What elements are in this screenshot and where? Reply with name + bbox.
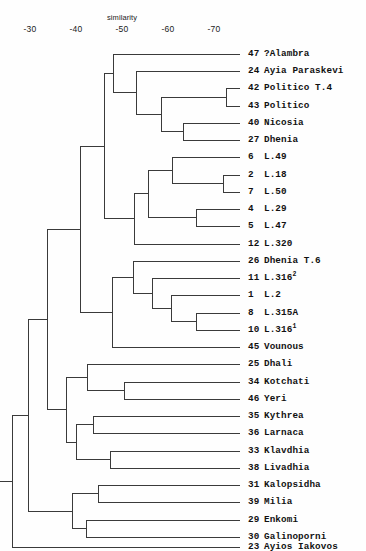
leaf-label: 23Ayios Iakovos	[248, 541, 338, 551]
leaf-label: 46Yeri	[248, 393, 287, 405]
leaf-name: L.50	[264, 186, 287, 198]
leaf-name: Enkomi	[264, 514, 298, 526]
leaf-number: 34	[248, 376, 264, 388]
leaf-name: L.320	[264, 238, 292, 250]
leaf-name: L.315A	[264, 307, 298, 319]
leaf-number: 46	[248, 393, 264, 405]
leaf-label: 33Klavdhia	[248, 445, 309, 457]
leaf-number: 8	[248, 307, 264, 319]
leaf-number: 2	[248, 169, 264, 181]
leaf-number: 25	[248, 358, 264, 370]
leaf-name: Kalopsidha	[264, 479, 321, 491]
leaf-name: Dhenia	[264, 134, 298, 146]
leaf-label: 11L.3162	[248, 272, 296, 284]
leaf-number: 1	[248, 289, 264, 301]
leaf-name: Nicosia	[264, 117, 304, 129]
leaf-name: Yeri	[264, 393, 287, 405]
leaf-label: 6L.49	[248, 151, 287, 163]
leaf-label: 7L.50	[248, 186, 287, 198]
leaf-label: 2L.18	[248, 169, 287, 181]
leaf-number: 26	[248, 255, 264, 267]
leaf-label: 35Kythrea	[248, 410, 304, 422]
leaf-name: L.316	[264, 324, 292, 336]
leaf-name: L.29	[264, 203, 287, 215]
leaf-label: 29Enkomi	[248, 514, 298, 526]
leaf-number: 38	[248, 462, 264, 474]
leaf-name: L.47	[264, 220, 287, 232]
leaf-number: 33	[248, 445, 264, 457]
leaf-label: 4L.29	[248, 203, 287, 215]
leaf-name: L.49	[264, 151, 287, 163]
leaf-label: 27Dhenia	[248, 134, 298, 146]
leaf-number: 27	[248, 134, 264, 146]
leaf-number: 47	[248, 48, 264, 60]
leaf-name: Politico T.4	[264, 82, 332, 94]
leaf-name: Politico	[264, 100, 309, 112]
leaf-number: 12	[248, 238, 264, 250]
leaf-number: 5	[248, 220, 264, 232]
leaf-name: L.2	[264, 289, 281, 301]
leaf-label: 10L.3161	[248, 324, 296, 336]
leaf-label: 1L.2	[248, 289, 281, 301]
leaf-label: 26Dhenia T.6	[248, 255, 321, 267]
leaf-label: 38Livadhia	[248, 462, 309, 474]
leaf-number: 39	[248, 496, 264, 508]
leaf-number: 7	[248, 186, 264, 198]
leaf-label: 43Politico	[248, 100, 309, 112]
leaf-name: Dhali	[264, 358, 292, 370]
leaf-name: Klavdhia	[264, 445, 309, 457]
leaf-name: Ayios Iakovos	[264, 541, 338, 551]
leaf-name: ?Alambra	[264, 48, 309, 60]
leaf-name: Vounous	[264, 341, 304, 353]
leaf-name: Milia	[264, 496, 292, 508]
leaf-label: 42Politico T.4	[248, 82, 332, 94]
leaf-number: 35	[248, 410, 264, 422]
leaf-label: 8L.315A	[248, 307, 298, 319]
leaf-name: Kotchati	[264, 376, 309, 388]
leaf-number: 4	[248, 203, 264, 215]
leaf-name: Dhenia T.6	[264, 255, 321, 267]
leaf-label: 34Kotchati	[248, 376, 309, 388]
leaf-label: 39Milia	[248, 496, 292, 508]
leaf-superscript: 1	[292, 323, 296, 330]
leaf-name: Larnaca	[264, 427, 304, 439]
leaf-number: 24	[248, 65, 264, 77]
dendrogram-figure: -30-40-50-60-70similarity 47?Alambra24Ay…	[0, 0, 366, 551]
leaf-label: 47?Alambra	[248, 48, 309, 60]
leaf-name: Livadhia	[264, 462, 309, 474]
leaf-number: 10	[248, 324, 264, 336]
leaf-label: 24Ayia Paraskevi	[248, 65, 344, 77]
leaf-superscript: 2	[292, 271, 296, 278]
leaf-label: 45Vounous	[248, 341, 304, 353]
leaf-name: L.18	[264, 169, 287, 181]
leaf-number: 45	[248, 341, 264, 353]
leaf-name: Ayia Paraskevi	[264, 65, 344, 77]
leaf-number: 31	[248, 479, 264, 491]
leaf-number: 29	[248, 514, 264, 526]
leaf-number: 36	[248, 427, 264, 439]
leaf-label: 12L.320	[248, 238, 292, 250]
leaf-number: 43	[248, 100, 264, 112]
leaf-number: 23	[248, 541, 264, 551]
leaf-number: 11	[248, 272, 264, 284]
leaf-name: L.316	[264, 272, 292, 284]
leaf-name: Kythrea	[264, 410, 304, 422]
leaf-number: 42	[248, 82, 264, 94]
leaf-label: 31Kalopsidha	[248, 479, 321, 491]
leaf-number: 40	[248, 117, 264, 129]
leaf-label: 5L.47	[248, 220, 287, 232]
leaf-label: 25Dhali	[248, 358, 292, 370]
leaf-label: 36Larnaca	[248, 427, 304, 439]
leaf-label: 40Nicosia	[248, 117, 304, 129]
leaf-number: 6	[248, 151, 264, 163]
